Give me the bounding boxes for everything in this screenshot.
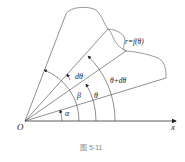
label-origin: O bbox=[17, 122, 24, 132]
arc-alpha bbox=[60, 110, 62, 121]
label-x-axis: x bbox=[170, 122, 175, 132]
polar-area-diagram: O x r=f(θ) α β θ dθ θ+dθ 图 5-11 bbox=[0, 0, 185, 162]
arc-dtheta bbox=[67, 74, 70, 80]
sector-element-arc bbox=[108, 29, 126, 51]
ray-beta bbox=[25, 14, 66, 121]
ray-theta-plus-dtheta bbox=[25, 29, 108, 121]
label-theta-plus-dtheta: θ+dθ bbox=[110, 76, 126, 85]
label-dtheta: dθ bbox=[75, 72, 83, 81]
figure-caption: 图 5-11 bbox=[80, 144, 103, 152]
label-beta: β bbox=[76, 91, 81, 100]
arc-theta-plus-dtheta bbox=[88, 56, 115, 121]
label-curve: r=f(θ) bbox=[125, 37, 144, 46]
ray-theta bbox=[25, 51, 126, 121]
arc-theta bbox=[86, 84, 96, 121]
label-alpha: α bbox=[65, 109, 70, 118]
label-theta: θ bbox=[94, 91, 98, 100]
